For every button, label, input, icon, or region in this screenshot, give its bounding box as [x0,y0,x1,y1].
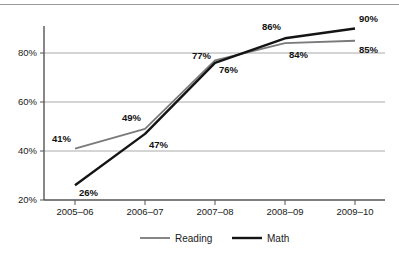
gridlines [44,53,385,151]
data-label-reading-1: 49% [122,112,142,123]
data-label-math-2: 76% [219,64,239,75]
data-label-reading-4: 85% [359,44,379,55]
x-tick-marks [75,200,355,205]
chart-legend: Reading Math [140,233,289,244]
data-label-math-0: 26% [79,187,99,198]
series-line-reading [75,41,355,149]
data-label-reading-3: 84% [289,49,309,60]
line-chart-plot: 80% 60% 40% 20% 2005–06 2006–07 2007–08 … [0,0,399,253]
x-tick-label-2: 2007–08 [197,206,234,217]
y-tick-label-60: 60% [18,96,38,107]
y-tick-label-20: 20% [18,194,38,205]
legend-label-math: Math [267,233,289,244]
data-label-math-4: 90% [359,13,379,24]
y-tick-label-40: 40% [18,145,38,156]
chart-container: 80% 60% 40% 20% 2005–06 2006–07 2007–08 … [0,0,399,253]
y-tick-label-80: 80% [18,47,38,58]
x-tick-label-3: 2008–09 [267,206,304,217]
data-label-math-1: 47% [149,139,169,150]
data-label-math-3: 86% [262,21,282,32]
x-tick-label-0: 2005–06 [57,206,94,217]
data-label-reading-2: 77% [192,50,212,61]
series-line-math [75,29,355,186]
x-tick-label-4: 2009–10 [337,206,374,217]
data-label-reading-0: 41% [52,133,72,144]
legend-label-reading: Reading [175,233,212,244]
x-tick-label-1: 2006–07 [127,206,164,217]
